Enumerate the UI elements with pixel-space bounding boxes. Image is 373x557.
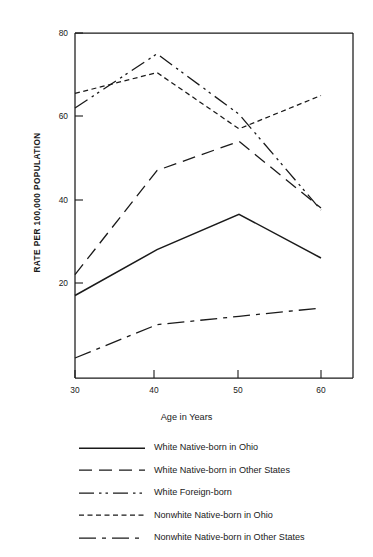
legend-swatch-short-dash	[78, 504, 146, 526]
legend-label-nonwhite-native-ohio: Nonwhite Native-born in Ohio	[154, 510, 273, 520]
axis-frame	[75, 33, 353, 378]
legend-swatch-dash-dot	[78, 527, 146, 549]
chart-figure: RATE PER 100,000 POPULATION 80 60 40 20 …	[0, 0, 373, 557]
legend-swatch-solid	[78, 437, 146, 459]
chart-legend: White Native-born in Ohio White Native-b…	[0, 437, 373, 549]
legend-item-white-native-other-states: White Native-born in Other States	[0, 459, 373, 481]
legend-label-white-foreign-born: White Foreign-born	[154, 487, 232, 497]
legend-label-nonwhite-native-other-states: Nonwhite Native-born in Other States	[154, 532, 305, 542]
series-line-white-native-ohio	[75, 214, 321, 295]
legend-item-nonwhite-native-ohio: Nonwhite Native-born in Ohio	[0, 504, 373, 526]
x-axis-ticks	[75, 370, 321, 378]
y-axis-ticks	[75, 33, 83, 283]
legend-label-white-native-ohio: White Native-born in Ohio	[154, 442, 258, 452]
series-line-nonwhite-native-other-states	[75, 308, 321, 358]
legend-label-white-native-other-states: White Native-born in Other States	[154, 465, 290, 475]
x-axis-title: Age in Years	[0, 412, 373, 422]
series-line-nonwhite-native-ohio	[75, 73, 321, 129]
plot-area	[0, 0, 373, 400]
legend-item-white-native-ohio: White Native-born in Ohio	[0, 437, 373, 459]
series-line-white-foreign-born	[75, 54, 321, 210]
legend-item-white-foreign-born: White Foreign-born	[0, 482, 373, 504]
legend-swatch-dash-dot-dot	[78, 482, 146, 504]
legend-item-nonwhite-native-other-states: Nonwhite Native-born in Other States	[0, 527, 373, 549]
legend-swatch-long-dash	[78, 459, 146, 481]
series-line-white-native-other-states	[75, 141, 321, 274]
data-series-group	[75, 54, 321, 358]
